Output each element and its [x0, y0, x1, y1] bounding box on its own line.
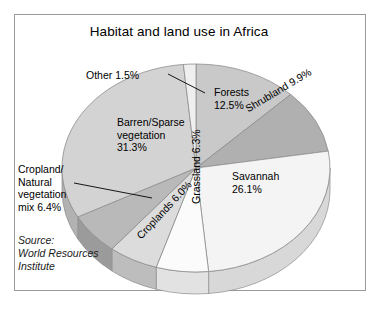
source-note: Source: World Resources Institute — [18, 234, 99, 273]
slice-label-grassland: Grassland 6.3% — [190, 129, 203, 204]
slice-label-forests: Forests 12.5% — [214, 86, 249, 111]
slice-label-other: Other 1.5% — [86, 69, 139, 82]
slice-label-savannah: Savannah 26.1% — [232, 170, 279, 195]
slice-label-barren: Barren/Sparse vegetation 31.3% — [117, 116, 185, 154]
slice-label-cropland-natural-mix: Cropland/ Natural vegetation mix 6.4% — [18, 163, 66, 213]
